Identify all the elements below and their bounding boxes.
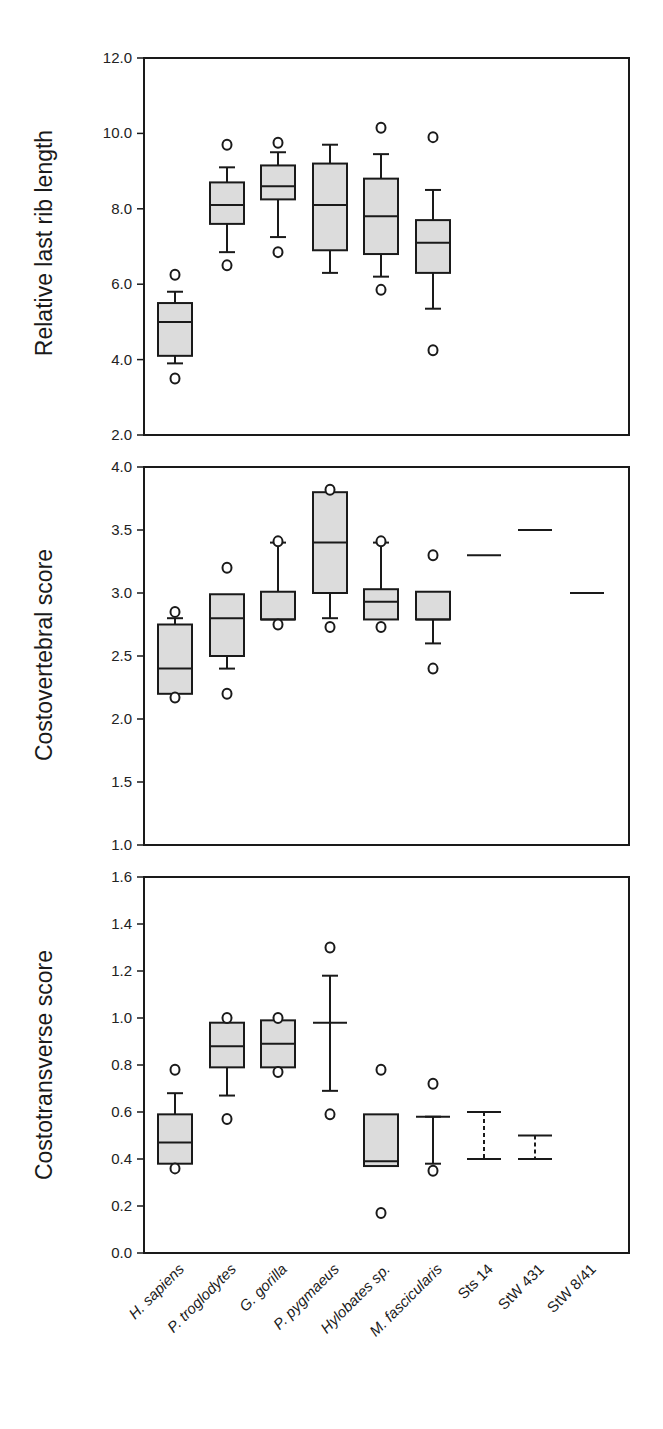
series-p-troglodytes xyxy=(210,563,244,699)
series-stw-431 xyxy=(518,1136,552,1160)
y-tick-label: 1.0 xyxy=(111,1009,132,1026)
outlier-point xyxy=(171,373,180,383)
y-axis-title: Costotransverse score xyxy=(31,950,57,1180)
series-m-fascicularis xyxy=(416,132,450,355)
box xyxy=(210,182,244,223)
y-tick-label: 2.0 xyxy=(111,426,132,443)
outlier-point xyxy=(377,123,386,133)
series-hylobates-sp- xyxy=(364,123,398,295)
outlier-point xyxy=(274,1013,283,1023)
box xyxy=(313,164,347,251)
outlier-point xyxy=(429,550,438,560)
outlier-point xyxy=(429,345,438,355)
outlier-point xyxy=(274,1067,283,1077)
outlier-point xyxy=(223,689,232,699)
box xyxy=(416,220,450,273)
outlier-point xyxy=(171,693,180,703)
y-tick-label: 3.0 xyxy=(111,584,132,601)
series-sts-14 xyxy=(467,1112,501,1159)
y-tick-label: 0.2 xyxy=(111,1197,132,1214)
box xyxy=(364,589,398,619)
outlier-point xyxy=(377,622,386,632)
outlier-point xyxy=(377,1065,386,1075)
series-h-sapiens xyxy=(158,270,192,384)
series-p-troglodytes xyxy=(210,140,244,271)
y-tick-label: 0.0 xyxy=(111,1244,132,1261)
y-tick-label: 10.0 xyxy=(103,124,132,141)
outlier-point xyxy=(274,620,283,630)
outlier-point xyxy=(326,485,335,495)
x-category-label: Sts 14 xyxy=(454,1260,496,1302)
outlier-point xyxy=(171,270,180,280)
y-tick-label: 12.0 xyxy=(103,49,132,66)
series-g-gorilla xyxy=(261,1013,295,1077)
chart-panel-3: 1.61.41.21.00.80.60.40.20.0Costotransver… xyxy=(31,868,629,1261)
outlier-point xyxy=(429,132,438,142)
chart-panel-1: 12.010.08.06.04.02.0Relative last rib le… xyxy=(31,49,629,443)
outlier-point xyxy=(171,607,180,617)
y-tick-label: 1.0 xyxy=(111,836,132,853)
box xyxy=(210,594,244,656)
x-category-label: StW 8/41 xyxy=(543,1260,599,1316)
y-tick-label: 0.6 xyxy=(111,1103,132,1120)
chart-panel-2: 4.03.53.02.52.01.51.0Costovertebral scor… xyxy=(31,458,629,853)
series-p-pygmaeus xyxy=(313,145,347,273)
series-p-troglodytes xyxy=(210,1013,244,1124)
series-hylobates-sp- xyxy=(364,536,398,632)
series-h-sapiens xyxy=(158,607,192,703)
outlier-point xyxy=(223,1114,232,1124)
outlier-point xyxy=(326,1109,335,1119)
outlier-point xyxy=(377,536,386,546)
y-tick-label: 8.0 xyxy=(111,200,132,217)
outlier-point xyxy=(223,260,232,270)
y-tick-label: 2.0 xyxy=(111,710,132,727)
series-hylobates-sp- xyxy=(364,1065,398,1218)
outlier-point xyxy=(274,536,283,546)
box xyxy=(416,592,450,620)
y-axis-title: Costovertebral score xyxy=(31,549,57,761)
y-tick-label: 6.0 xyxy=(111,275,132,292)
outlier-point xyxy=(377,285,386,295)
box xyxy=(261,165,295,199)
y-tick-label: 1.4 xyxy=(111,915,132,932)
outlier-point xyxy=(223,563,232,573)
box xyxy=(261,592,295,620)
x-axis-category-labels: H. sapiensP. troglodytesG. gorillaP. pyg… xyxy=(125,1260,599,1340)
box xyxy=(364,1114,398,1166)
outlier-point xyxy=(429,1079,438,1089)
box xyxy=(158,303,192,356)
outlier-point xyxy=(223,1013,232,1023)
box-plot-figure: 12.010.08.06.04.02.0Relative last rib le… xyxy=(0,0,663,1429)
outlier-point xyxy=(274,247,283,257)
outlier-point xyxy=(377,1208,386,1218)
x-category-label: G. gorilla xyxy=(236,1260,290,1314)
outlier-point xyxy=(326,943,335,953)
outlier-point xyxy=(171,1065,180,1075)
y-tick-label: 1.5 xyxy=(111,773,132,790)
y-tick-label: 0.8 xyxy=(111,1056,132,1073)
series-g-gorilla xyxy=(261,138,295,257)
series-g-gorilla xyxy=(261,536,295,629)
outlier-point xyxy=(326,622,335,632)
y-axis-title: Relative last rib length xyxy=(31,130,57,356)
y-tick-label: 1.6 xyxy=(111,868,132,885)
series-m-fascicularis xyxy=(416,550,450,673)
outlier-point xyxy=(274,138,283,148)
outlier-point xyxy=(429,1166,438,1176)
y-tick-label: 1.2 xyxy=(111,962,132,979)
series-h-sapiens xyxy=(158,1065,192,1174)
box xyxy=(158,625,192,694)
series-p-pygmaeus xyxy=(313,943,347,1120)
y-tick-label: 0.4 xyxy=(111,1150,132,1167)
series-p-pygmaeus xyxy=(313,485,347,632)
box xyxy=(210,1023,244,1068)
y-tick-label: 2.5 xyxy=(111,647,132,664)
y-tick-label: 4.0 xyxy=(111,458,132,475)
series-m-fascicularis xyxy=(416,1079,450,1176)
box xyxy=(158,1114,192,1163)
x-category-label: StW 431 xyxy=(494,1260,547,1313)
y-tick-label: 3.5 xyxy=(111,521,132,538)
outlier-point xyxy=(171,1163,180,1173)
y-tick-label: 4.0 xyxy=(111,351,132,368)
outlier-point xyxy=(223,140,232,150)
